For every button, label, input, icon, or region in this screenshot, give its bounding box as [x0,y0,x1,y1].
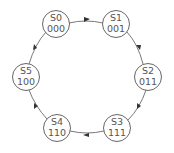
edge-s4-s5 [29,90,47,119]
state-diagram: S0 000 S1 001 S2 011 S3 111 S4 110 S5 10… [0,0,174,153]
node-name: S1 [110,12,122,23]
edge-s1-s2 [127,32,143,64]
node-code: 100 [17,76,35,87]
node-name: S3 [111,116,123,127]
node-name: S4 [51,116,63,127]
arrow-icon [83,133,89,137]
node-name: S0 [50,12,62,23]
node-s4: S4 110 [44,115,71,142]
node-s1: S1 001 [103,11,130,38]
node-code: 001 [107,23,125,34]
node-code: 111 [108,127,126,138]
edge-s5-s0 [29,32,46,64]
arrow-icon [136,45,141,50]
node-s2: S2 011 [135,64,162,91]
node-s3: S3 111 [104,115,131,142]
node-s5: S5 100 [13,64,40,91]
edge-s3-s4 [70,131,104,133]
node-s0: S0 000 [43,11,70,38]
node-code: 000 [47,23,65,34]
node-code: 110 [48,127,66,138]
edges [29,21,146,133]
edge-s0-s1 [69,21,103,23]
node-name: S2 [142,65,154,76]
node-code: 011 [139,76,157,87]
node-name: S5 [20,65,32,76]
